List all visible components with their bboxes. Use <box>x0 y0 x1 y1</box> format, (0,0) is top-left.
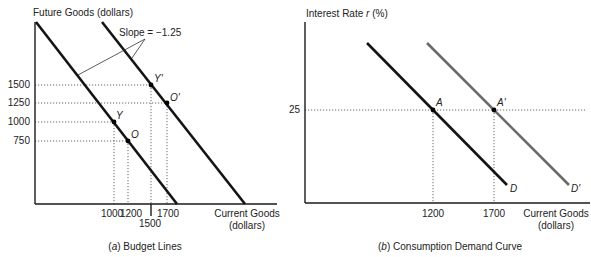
guide-lines <box>35 85 167 204</box>
slope-leader-shifted <box>132 39 145 58</box>
y-title-text: Interest Rate <box>306 8 366 19</box>
x-axis-title-line1: Current Goods <box>523 208 589 219</box>
x-axis-title-line2: (dollars) <box>538 220 574 231</box>
x-axis-title-line1: Current Goods <box>214 208 280 219</box>
y-axis-title: Future Goods (dollars) <box>33 7 133 18</box>
slope-leader-initial <box>78 39 145 75</box>
label-d-prime: D' <box>571 183 581 194</box>
figure: Future Goods (dollars) Slope = −1.25 Y <box>0 0 591 257</box>
caption-b: (b) Consumption Demand Curve <box>378 241 522 252</box>
label-o-prime: O' <box>170 92 181 103</box>
caption-b-text: ) Consumption Demand Curve <box>387 241 522 252</box>
caption-a-text: ) Budget Lines <box>117 241 182 252</box>
label-a: A <box>435 97 443 108</box>
x-axis-title-line2: (dollars) <box>229 220 265 231</box>
panel-a-budget-lines: Future Goods (dollars) Slope = −1.25 Y <box>8 7 280 252</box>
point-o-prime <box>165 101 170 106</box>
x-tick-1700: 1700 <box>483 208 506 219</box>
label-y: Y <box>116 110 124 121</box>
y-tick-750: 750 <box>13 135 30 146</box>
x-tick-1200: 1200 <box>422 208 445 219</box>
label-o: O <box>131 129 139 140</box>
label-a-prime: A' <box>496 97 507 108</box>
y-tick-1250: 1250 <box>8 97 31 108</box>
budget-line-shifted <box>102 22 245 204</box>
point-o <box>126 139 131 144</box>
y-tick-25: 25 <box>289 104 301 115</box>
slope-label: Slope = −1.25 <box>119 27 182 38</box>
y-axis-title: Interest Rate r (%) <box>306 8 388 19</box>
point-a-prime <box>492 108 497 113</box>
y-title-unit: (%) <box>369 8 387 19</box>
label-y-prime: Y' <box>154 73 164 84</box>
caption-a: (a) Budget Lines <box>108 241 181 252</box>
point-a <box>431 108 436 113</box>
x-tick-1500-label: 1500 <box>139 218 162 229</box>
budget-line-initial <box>36 22 177 204</box>
y-tick-1000: 1000 <box>8 116 31 127</box>
point-y-prime <box>149 83 154 88</box>
panel-b-consumption-demand: Interest Rate r (%) A A' D D' 25 1200 17… <box>289 8 590 252</box>
demand-curve-d-prime <box>427 43 569 185</box>
label-d: D <box>510 183 517 194</box>
demand-curve-d <box>367 43 507 185</box>
y-tick-1500: 1500 <box>8 79 31 90</box>
